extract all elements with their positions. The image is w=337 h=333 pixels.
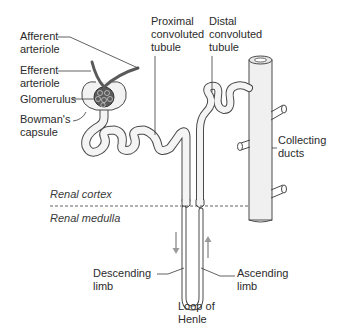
nephron-diagram: Afferent arteriole Efferent arteriole Gl… bbox=[0, 0, 337, 333]
label-collecting-ducts: Collecting ducts bbox=[278, 134, 326, 160]
label-renal-medulla: Renal medulla bbox=[50, 212, 120, 225]
label-distal-tubule: Distal convoluted tubule bbox=[209, 15, 262, 54]
glomerulus bbox=[94, 87, 114, 107]
label-bowmans-capsule: Bowman's capsule bbox=[20, 113, 70, 139]
descending-arrow-icon bbox=[173, 248, 180, 254]
label-renal-cortex: Renal cortex bbox=[50, 188, 112, 201]
label-descending-limb: Descending limb bbox=[93, 267, 151, 293]
leader-lines bbox=[58, 37, 277, 276]
label-afferent-arteriole: Afferent arteriole bbox=[20, 30, 60, 56]
label-loop-of-henle: Loop of Henle bbox=[178, 300, 215, 326]
label-proximal-tubule: Proximal convoluted tubule bbox=[151, 15, 204, 54]
loop-of-henle bbox=[184, 208, 201, 308]
ascending-arrow-icon bbox=[205, 236, 212, 242]
label-ascending-limb: Ascending limb bbox=[237, 267, 288, 293]
label-efferent-arteriole: Efferent arteriole bbox=[20, 64, 60, 90]
flow-arrows bbox=[173, 232, 212, 258]
label-glomerulus: Glomerulus bbox=[20, 93, 76, 106]
